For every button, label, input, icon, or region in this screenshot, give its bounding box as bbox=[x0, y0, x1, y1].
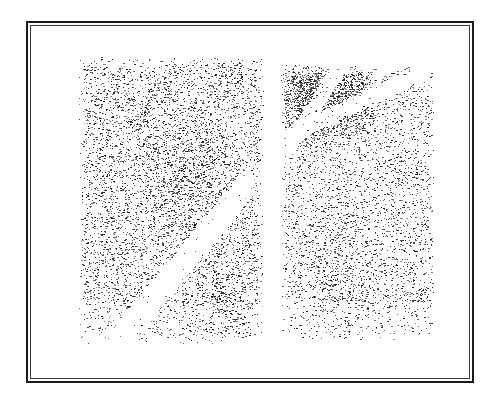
stipple-panel-left bbox=[78, 56, 264, 344]
stipple-panel-right bbox=[280, 64, 434, 340]
stipple-drawing-right bbox=[280, 64, 434, 340]
stipple-drawing-left bbox=[78, 56, 264, 344]
